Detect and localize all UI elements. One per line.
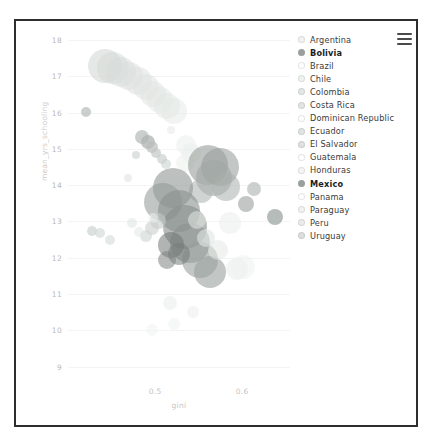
legend-marker-icon xyxy=(298,75,305,82)
legend-item-mexico[interactable]: Mexico xyxy=(298,177,418,190)
top-strip-text xyxy=(3,0,63,10)
bubble-series xyxy=(68,31,290,381)
legend-item-costa-rica[interactable]: Costa Rica xyxy=(298,98,418,111)
bubble-point[interactable] xyxy=(95,228,105,238)
x-axis-tick-label: 0.6 xyxy=(222,387,262,396)
bubble-point[interactable] xyxy=(188,211,206,229)
legend-item-label: Honduras xyxy=(310,165,351,175)
menu-bar-2 xyxy=(397,38,412,40)
legend-item-chile[interactable]: Chile xyxy=(298,72,418,85)
bubble-point[interactable] xyxy=(127,218,137,228)
menu-bar-3 xyxy=(397,43,412,45)
y-axis-tick-label: 18 xyxy=(22,36,62,45)
legend-marker-icon xyxy=(298,167,305,174)
legend-item-label: Peru xyxy=(310,218,329,228)
legend-item-el-salvador[interactable]: El Salvador xyxy=(298,138,418,151)
legend-marker-icon xyxy=(298,180,305,187)
legend-marker-icon xyxy=(298,193,305,200)
legend-marker-icon xyxy=(298,128,305,135)
legend-marker-icon xyxy=(298,232,305,239)
y-axis-tick-label: 12 xyxy=(22,254,62,263)
legend-item-label: Paraguay xyxy=(310,205,349,215)
bubble-point[interactable] xyxy=(161,98,187,124)
legend-item-ecuador[interactable]: Ecuador xyxy=(298,125,418,138)
legend-item-label: El Salvador xyxy=(310,139,358,149)
legend-item-label: Dominican Republic xyxy=(310,113,394,123)
bubble-point[interactable] xyxy=(132,151,140,159)
legend-marker-icon xyxy=(298,36,305,43)
legend-item-label: Chile xyxy=(310,74,331,84)
bubble-point[interactable] xyxy=(146,324,158,336)
legend-item-bolivia[interactable]: Bolivia xyxy=(298,46,418,59)
x-axis-label: gini xyxy=(68,401,290,410)
y-axis-tick-label: 10 xyxy=(22,326,62,335)
y-axis-tick-label: 17 xyxy=(22,72,62,81)
bubble-point[interactable] xyxy=(105,235,115,245)
chart-screenshot: 9101112131415161718 0.50.6 gini mean_yrs… xyxy=(0,0,432,442)
legend-item-label: Ecuador xyxy=(310,126,345,136)
legend[interactable]: ArgentinaBoliviaBrazilChileColombiaCosta… xyxy=(298,33,418,243)
hamburger-menu-icon[interactable] xyxy=(397,33,412,45)
chart-canvas: 9101112131415161718 0.50.6 gini mean_yrs… xyxy=(16,21,416,425)
legend-item-peru[interactable]: Peru xyxy=(298,216,418,229)
bubble-point[interactable] xyxy=(158,251,176,269)
bubble-point[interactable] xyxy=(163,296,177,310)
bubble-point[interactable] xyxy=(208,240,228,260)
legend-item-panama[interactable]: Panama xyxy=(298,190,418,203)
y-axis-tick-label: 9 xyxy=(22,363,62,372)
legend-item-dominican-republic[interactable]: Dominican Republic xyxy=(298,112,418,125)
legend-item-brazil[interactable]: Brazil xyxy=(298,59,418,72)
bubble-point[interactable] xyxy=(231,255,255,279)
legend-item-colombia[interactable]: Colombia xyxy=(298,85,418,98)
legend-marker-icon xyxy=(298,88,305,95)
y-axis-tick-label: 13 xyxy=(22,217,62,226)
legend-item-label: Uruguay xyxy=(310,231,346,241)
legend-item-honduras[interactable]: Honduras xyxy=(298,164,418,177)
y-axis-label: mean_yrs_schooling xyxy=(40,102,49,181)
legend-marker-icon xyxy=(298,154,305,161)
legend-marker-icon xyxy=(298,102,305,109)
legend-item-uruguay[interactable]: Uruguay xyxy=(298,229,418,242)
legend-item-label: Costa Rica xyxy=(310,100,355,110)
legend-item-label: Mexico xyxy=(310,179,343,189)
x-axis-tick-label: 0.5 xyxy=(135,387,175,396)
bubble-point[interactable] xyxy=(247,182,261,196)
legend-marker-icon xyxy=(298,115,305,122)
legend-marker-icon xyxy=(298,49,305,56)
menu-bar-1 xyxy=(397,33,412,35)
legend-item-label: Guatemala xyxy=(310,152,356,162)
bubble-point[interactable] xyxy=(238,196,254,212)
bubble-point[interactable] xyxy=(212,173,240,201)
legend-item-label: Panama xyxy=(310,192,344,202)
bubble-point[interactable] xyxy=(219,212,241,234)
legend-item-guatemala[interactable]: Guatemala xyxy=(298,151,418,164)
plot-area: 9101112131415161718 0.50.6 gini mean_yrs… xyxy=(68,31,290,381)
bubble-point[interactable] xyxy=(194,256,226,288)
legend-item-label: Argentina xyxy=(310,35,351,45)
legend-marker-icon xyxy=(298,141,305,148)
y-axis-tick-label: 14 xyxy=(22,181,62,190)
y-axis-tick-label: 11 xyxy=(22,290,62,299)
bubble-point[interactable] xyxy=(167,126,175,134)
bubble-point[interactable] xyxy=(134,227,144,237)
bubble-point[interactable] xyxy=(81,107,91,117)
legend-marker-icon xyxy=(298,219,305,226)
legend-item-label: Colombia xyxy=(310,87,350,97)
legend-item-label: Brazil xyxy=(310,61,334,71)
bubble-point[interactable] xyxy=(168,318,180,330)
bubble-point[interactable] xyxy=(187,306,199,318)
bubble-point[interactable] xyxy=(267,209,283,225)
legend-marker-icon xyxy=(298,62,305,69)
bubble-point[interactable] xyxy=(124,174,132,182)
legend-marker-icon xyxy=(298,206,305,213)
legend-item-paraguay[interactable]: Paraguay xyxy=(298,203,418,216)
legend-item-label: Bolivia xyxy=(310,48,342,58)
